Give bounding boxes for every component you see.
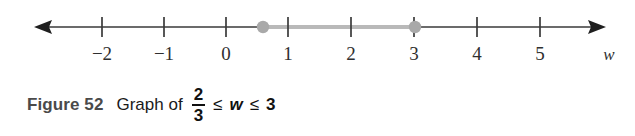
tick-label-2: 2 (346, 44, 356, 63)
fraction-denominator: 3 (192, 106, 205, 124)
endpoint-closed-upper (409, 21, 421, 33)
fraction-numerator: 2 (192, 86, 205, 104)
figure-number-label: Figure 52 (27, 95, 103, 115)
fraction-two-thirds: 2 3 (192, 86, 205, 124)
caption-description: Graph of (116, 95, 182, 115)
less-than-or-equal-icon-right: ≤ (250, 95, 259, 115)
axis-variable-label: w (603, 46, 614, 63)
figure-caption: Figure 52 Graph of 2 3 ≤ w ≤ 3 (27, 86, 277, 124)
tick-label-5: 5 (535, 44, 545, 63)
tick-label-4: 4 (472, 44, 482, 63)
caption-inequality: 2 3 ≤ w ≤ 3 (190, 86, 277, 124)
inequality-variable: w (229, 95, 242, 115)
figure-container: −2 −1 0 1 2 3 4 5 w Figure 52 Graph of 2… (0, 0, 635, 136)
tick-label-minus-2: −2 (92, 44, 112, 63)
tick-label-1: 1 (283, 44, 293, 63)
endpoint-closed-lower (257, 21, 269, 33)
less-than-or-equal-icon-left: ≤ (213, 95, 222, 115)
inequality-upper-bound: 3 (266, 95, 275, 115)
tick-label-minus-1: −1 (154, 44, 174, 63)
tick-label-0: 0 (221, 44, 231, 63)
tick-label-3: 3 (409, 44, 419, 63)
